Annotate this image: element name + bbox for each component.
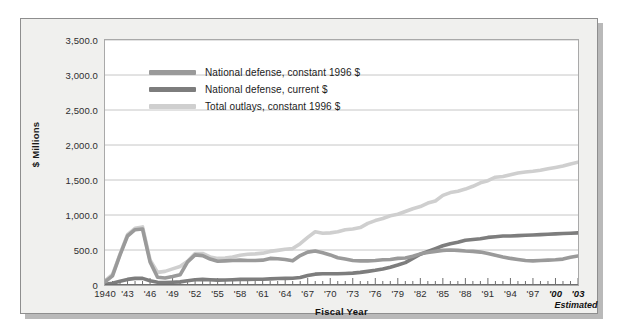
y-tick-label: 2,000.0: [66, 140, 98, 151]
x-tick-label: '03: [571, 288, 584, 299]
y-tick-label: 500.0: [74, 245, 98, 256]
x-tick-label: '97: [527, 288, 540, 299]
x-tick-label: '67: [301, 288, 314, 299]
x-tick-label: '55: [211, 288, 224, 299]
x-tick-label: '73: [346, 288, 359, 299]
x-tick-label: '88: [459, 288, 472, 299]
x-axis: 1940'43'46'49'52'55'58'61'64'67'70'73'76…: [104, 288, 579, 306]
x-tick-label: '79: [391, 288, 404, 299]
x-tick-label: '58: [234, 288, 247, 299]
x-tick-label: '61: [256, 288, 269, 299]
chart-page: $ Millions 0500.01,000.01,500.02,000.02,…: [0, 0, 620, 335]
y-tick-label: 1,500.0: [66, 175, 98, 186]
y-tick-label: 1,000.0: [66, 210, 98, 221]
estimated-annotation: Estimated: [554, 300, 597, 310]
legend-swatch-defense-current: [149, 87, 196, 92]
y-axis: $ Millions 0500.01,000.01,500.02,000.02,…: [21, 19, 104, 287]
y-tick-label: 2,500.0: [66, 105, 98, 116]
legend-label-total-outlays: Total outlays, constant 1996 $: [205, 101, 340, 112]
legend-swatch-total-outlays: [149, 104, 196, 109]
legend-swatch-defense-constant: [149, 70, 196, 75]
x-tick-label: '82: [414, 288, 427, 299]
x-tick-label: '43: [121, 288, 134, 299]
y-tick-label: 3,000.0: [66, 70, 98, 81]
legend-label-defense-current: National defense, current $: [205, 84, 328, 95]
y-tick-label: 3,500.0: [66, 35, 98, 46]
legend-item: National defense, current $: [149, 83, 360, 96]
x-tick-label: '00: [549, 288, 562, 299]
x-tick-label: '49: [166, 288, 179, 299]
chart-card: $ Millions 0500.01,000.01,500.02,000.02,…: [20, 18, 598, 314]
x-tick-label: '94: [504, 288, 517, 299]
x-tick-label: '52: [189, 288, 202, 299]
x-tick-label: '76: [369, 288, 382, 299]
x-tick-label: '91: [482, 288, 495, 299]
chart-legend: National defense, constant 1996 $ Nation…: [149, 66, 360, 113]
x-tick-label: '46: [144, 288, 157, 299]
x-tick-label: '85: [437, 288, 450, 299]
x-axis-title: Fiscal Year: [104, 306, 579, 317]
x-tick-label: 1940: [94, 288, 116, 299]
x-tick-label: '70: [324, 288, 337, 299]
legend-item: Total outlays, constant 1996 $: [149, 100, 360, 113]
x-tick-label: '64: [279, 288, 292, 299]
legend-item: National defense, constant 1996 $: [149, 66, 360, 79]
legend-label-defense-constant: National defense, constant 1996 $: [205, 67, 360, 78]
y-axis-title: $ Millions: [30, 105, 41, 185]
